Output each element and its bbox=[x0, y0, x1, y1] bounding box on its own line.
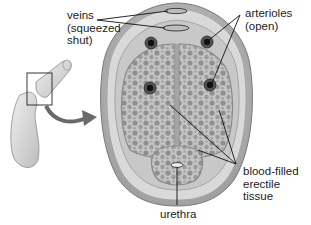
overview-shape bbox=[11, 60, 71, 168]
arrow-icon bbox=[46, 106, 86, 122]
arterioles-label: arterioles (open) bbox=[245, 7, 292, 32]
urethra-label: urethra bbox=[160, 208, 196, 221]
diagram: veins (squeezed shut) arterioles (open) … bbox=[0, 0, 311, 225]
erectile-tissue-label: blood-filled erectile tissue bbox=[243, 165, 311, 203]
vein-upper bbox=[165, 8, 187, 13]
arrowhead-icon bbox=[82, 110, 97, 126]
cross-section bbox=[101, 3, 253, 206]
urethra-opening bbox=[171, 163, 183, 168]
veins-label: veins (squeezed shut) bbox=[67, 9, 121, 47]
vein-lower bbox=[163, 25, 189, 31]
